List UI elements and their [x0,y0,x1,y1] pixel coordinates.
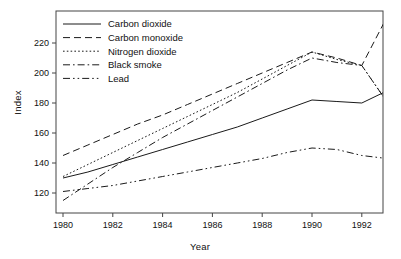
x-tick-label: 1992 [352,220,372,230]
x-tick-label: 1990 [302,220,322,230]
series-line-nitrogen-dioxide [63,52,387,177]
legend-label-nitrogen-dioxide: Nitrogen dioxide [108,46,177,57]
y-tick-label: 180 [34,98,49,108]
x-axis-title: Year [170,241,230,252]
x-axis-ticks: 1980198219841986198819901992 [53,213,372,230]
line-chart-canvas: 120140160180200220 198019821984198619881… [0,0,401,259]
legend-label-lead: Lead [108,73,129,84]
legend-label-carbon-dioxide: Carbon dioxide [108,18,172,29]
y-tick-label: 140 [34,158,49,168]
chart-legend: Carbon dioxideCarbon monoxideNitrogen di… [63,18,183,83]
chart-figure: 120140160180200220 198019821984198619881… [0,0,401,259]
y-tick-label: 120 [34,188,49,198]
y-tick-label: 220 [34,38,49,48]
legend-label-black-smoke: Black smoke [108,59,162,70]
series-line-lead [63,148,387,192]
y-tick-label: 160 [34,128,49,138]
x-tick-label: 1984 [153,220,173,230]
plot-border [56,11,383,213]
y-axis-title: Index [12,73,23,133]
y-tick-label: 200 [34,68,49,78]
legend-label-carbon-monoxide: Carbon monoxide [108,32,183,43]
x-tick-label: 1986 [202,220,222,230]
x-tick-label: 1980 [53,220,73,230]
y-axis-ticks: 120140160180200220 [34,38,56,198]
x-tick-label: 1988 [252,220,272,230]
x-tick-label: 1982 [103,220,123,230]
